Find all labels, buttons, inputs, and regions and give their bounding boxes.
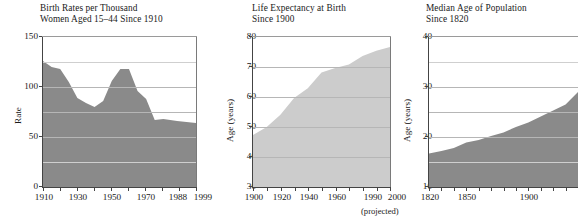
xtick-label-1990: 1990 xyxy=(364,193,382,202)
xtick-label-1988: 1988 xyxy=(169,193,187,202)
y-axis-title-age: Age (years) xyxy=(402,99,412,142)
xtick-mark-1920 xyxy=(281,188,282,191)
gridline-20 xyxy=(429,137,578,138)
gridline-30 xyxy=(429,87,578,88)
ytick-label-50: 50 xyxy=(16,132,38,141)
xtick-label-1950: 1950 xyxy=(103,193,121,202)
xtick-mark-1930 xyxy=(566,188,567,191)
xtick-mark-2000 xyxy=(390,188,391,191)
xtick-mark-1960 xyxy=(336,188,337,191)
gridline-125 xyxy=(43,62,196,63)
three-chart-figure: Birth Rates per Thousand Women Aged 15–4… xyxy=(0,0,578,224)
xtick-mark-1830 xyxy=(441,188,442,191)
xtick-mark-1850 xyxy=(466,188,467,191)
xtick-mark-1860 xyxy=(479,188,480,191)
ytick-label-100: 100 xyxy=(16,82,38,91)
area-series-life-expectancy xyxy=(253,37,390,187)
xtick-mark-1910 xyxy=(43,188,44,191)
xtick-mark-1820 xyxy=(429,188,430,191)
gridline-50 xyxy=(253,127,390,128)
gridline-25 xyxy=(429,112,578,113)
xtick-mark-1900 xyxy=(528,188,529,191)
ytick-label-0: 0 xyxy=(16,182,38,191)
gridline-15 xyxy=(429,162,578,163)
gridline-75 xyxy=(43,112,196,113)
xtick-mark-1870 xyxy=(491,188,492,191)
chart-title-birth-rates: Birth Rates per Thousand Women Aged 15–4… xyxy=(40,3,163,25)
xtick-mark-1910 xyxy=(267,188,268,191)
chart-title-line-1: Life Expectancy at Birth xyxy=(252,3,346,14)
projected-note: (projected) xyxy=(361,206,399,216)
xtick-mark-1960 xyxy=(128,188,129,191)
gridline-60 xyxy=(253,97,390,98)
xtick-mark-1930 xyxy=(295,188,296,191)
gridline-40 xyxy=(253,157,390,158)
chart-title-line-2: Since 1900 xyxy=(252,14,346,25)
chart-title-life-expectancy: Life Expectancy at Birth Since 1900 xyxy=(252,3,346,25)
xtick-mark-1999 xyxy=(196,188,197,191)
xtick-label-1970: 1970 xyxy=(137,193,155,202)
xtick-label-1960: 1960 xyxy=(328,193,346,202)
xtick-label-1820: 1820 xyxy=(421,193,439,202)
xtick-mark-1940 xyxy=(94,188,95,191)
xtick-mark-1950 xyxy=(322,188,323,191)
plot-right-edge xyxy=(196,36,197,187)
chart-title-median-age: Median Age of Population Since 1820 xyxy=(426,3,527,25)
ytick-label-150: 150 xyxy=(16,32,38,41)
plot-area-birth-rates xyxy=(43,37,196,187)
xtick-mark-1900 xyxy=(253,188,254,191)
xtick-mark-1910 xyxy=(541,188,542,191)
xtick-mark-1970 xyxy=(349,188,350,191)
xtick-label-1940: 1940 xyxy=(300,193,318,202)
gridline-100 xyxy=(43,87,196,88)
xtick-mark-1990 xyxy=(377,188,378,191)
chart-title-line-2: Women Aged 15–44 Since 1910 xyxy=(40,14,163,25)
xtick-label-1900: 1900 xyxy=(520,193,538,202)
xtick-label-1850: 1850 xyxy=(458,193,476,202)
chart-panel-birth-rates: Birth Rates per Thousand Women Aged 15–4… xyxy=(0,0,210,224)
x-axis-line xyxy=(428,187,578,188)
plot-right-edge xyxy=(390,36,391,187)
xtick-mark-1920 xyxy=(553,188,554,191)
xtick-mark-1840 xyxy=(454,188,455,191)
chart-title-line-1: Median Age of Population xyxy=(426,3,527,14)
y-axis-title-age: Age (years) xyxy=(225,99,235,142)
xtick-mark-1930 xyxy=(77,188,78,191)
xtick-label-1999: 1999 xyxy=(194,193,212,202)
chart-panel-life-expectancy: Life Expectancy at Birth Since 1900 Age … xyxy=(212,0,402,224)
xtick-label-1920: 1920 xyxy=(273,193,291,202)
plot-area-life-expectancy xyxy=(253,37,390,187)
xtick-mark-1980 xyxy=(363,188,364,191)
xtick-mark-1950 xyxy=(111,188,112,191)
xtick-mark-1890 xyxy=(516,188,517,191)
gridline-25 xyxy=(43,162,196,163)
xtick-label-1930: 1930 xyxy=(69,193,87,202)
xtick-mark-1880 xyxy=(504,188,505,191)
xtick-mark-1920 xyxy=(60,188,61,191)
gridline-35 xyxy=(429,62,578,63)
xtick-label-1910: 1910 xyxy=(35,193,53,202)
xtick-mark-1988 xyxy=(179,188,180,191)
xtick-mark-1940 xyxy=(308,188,309,191)
xtick-mark-1970 xyxy=(145,188,146,191)
plot-area-median-age xyxy=(429,37,578,187)
xtick-label-1900: 1900 xyxy=(245,193,263,202)
chart-title-line-2: Since 1820 xyxy=(426,14,527,25)
chart-title-line-1: Birth Rates per Thousand xyxy=(40,3,163,14)
gridline-50 xyxy=(43,137,196,138)
y-axis-title-rate: Rate xyxy=(13,107,23,124)
x-axis-line xyxy=(42,187,197,188)
gridline-70 xyxy=(253,67,390,68)
chart-panel-median-age: Median Age of Population Since 1820 Age … xyxy=(404,0,578,224)
xtick-mark-1980 xyxy=(162,188,163,191)
